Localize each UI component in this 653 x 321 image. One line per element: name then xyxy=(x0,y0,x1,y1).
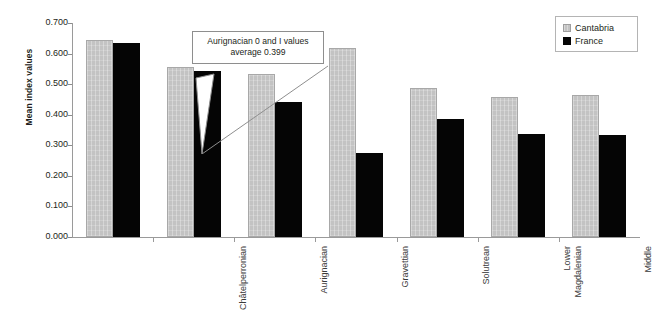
annotation-callout: Aurignacian 0 and I values average 0.399 xyxy=(192,31,324,64)
bar-france-3 xyxy=(356,153,383,237)
x-axis-label: Middle Magdalenian xyxy=(643,246,653,321)
x-axis-label: Châtelperronian xyxy=(238,246,249,321)
bar-cantabria-2 xyxy=(248,74,275,237)
bar-france-5 xyxy=(518,134,545,237)
bar-france-4 xyxy=(437,119,464,237)
bar-cantabria-5 xyxy=(491,97,518,237)
bar-cantabria-3 xyxy=(329,48,356,237)
legend-label-france: France xyxy=(575,36,603,46)
x-tick-mark xyxy=(153,238,154,242)
bar-chart: Mean index values 0.7000.6000.5000.4000.… xyxy=(0,0,653,321)
bar-france-2 xyxy=(275,102,302,237)
x-tick-mark xyxy=(234,238,235,242)
bar-cantabria-1 xyxy=(167,67,194,237)
x-axis-label: Solutrean xyxy=(481,246,492,321)
annotation-line-2: average 0.399 xyxy=(198,47,318,58)
bar-france-1 xyxy=(194,71,221,237)
bar-france-0 xyxy=(113,43,140,237)
legend-item-france: France xyxy=(563,34,631,47)
chart-legend: Cantabria France xyxy=(555,16,638,52)
bar-cantabria-0 xyxy=(86,40,113,237)
legend-item-cantabria: Cantabria xyxy=(563,21,631,34)
bar-cantabria-6 xyxy=(572,95,599,237)
x-axis-label: Lower Magdalenian xyxy=(562,246,583,321)
annotation-line-1: Aurignacian 0 and I values xyxy=(198,36,318,47)
bar-france-6 xyxy=(599,135,626,237)
x-tick-mark xyxy=(478,238,479,242)
cantabria-swatch-icon xyxy=(563,24,571,32)
x-tick-mark xyxy=(315,238,316,242)
bar-cantabria-4 xyxy=(410,88,437,237)
legend-label-cantabria: Cantabria xyxy=(575,23,614,33)
x-axis-label: Gravettian xyxy=(400,246,411,321)
x-axis-label: Aurignacian xyxy=(319,246,330,321)
france-swatch-icon xyxy=(563,37,571,45)
x-tick-mark xyxy=(397,238,398,242)
x-tick-mark xyxy=(559,238,560,242)
